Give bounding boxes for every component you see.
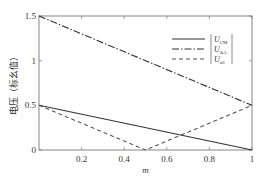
x-tick-label: 1 [250,154,255,164]
legend-label: Ua0 [214,55,225,65]
plot-area-frame [39,16,252,150]
y-tick-label: 0 [32,145,37,155]
y-tick-label: 1.5 [25,11,37,21]
y-tick-label: 0.5 [25,100,37,110]
x-tick-label: 0.6 [161,154,173,164]
chart: 00.511.50.20.40.60.81m电压（标幺值）UCMUΔAUa0 [0,0,265,181]
x-tick-label: 0.2 [76,154,87,164]
x-tick-label: 0.8 [204,154,216,164]
x-axis-label: m [142,165,149,175]
y-tick-label: 1 [32,56,37,66]
y-axis-label: 电压（标幺值） [8,52,19,115]
legend-label: UΔA [214,45,227,55]
series-line-cm [39,105,252,150]
legend-label: UCM [214,35,228,45]
x-tick-label: 0.4 [119,154,131,164]
